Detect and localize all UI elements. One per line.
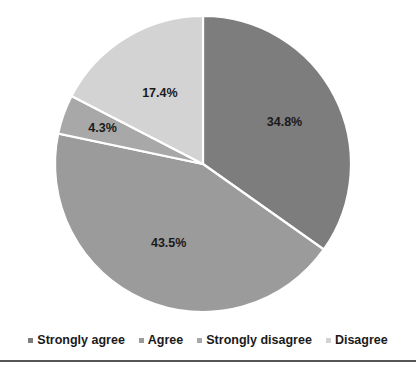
chart-legend: Strongly agree Agree Strongly disagree D…	[0, 329, 416, 351]
pie-svg	[0, 0, 416, 325]
legend-item-disagree[interactable]: Disagree	[326, 333, 388, 347]
legend-swatch-icon	[139, 338, 144, 343]
slice-label-agree: 43.5%	[151, 236, 186, 250]
pie-plot-area: 34.8% 43.5% 4.3% 17.4%	[0, 0, 416, 325]
legend-item-label: Strongly disagree	[206, 333, 312, 347]
legend-item-agree[interactable]: Agree	[139, 333, 183, 347]
legend-item-strongly-disagree[interactable]: Strongly disagree	[197, 333, 312, 347]
legend-item-strongly-agree[interactable]: Strongly agree	[28, 333, 125, 347]
footer-divider	[0, 360, 416, 362]
pie-slice-group	[55, 16, 351, 312]
legend-swatch-icon	[28, 338, 33, 343]
slice-label-strongly-agree: 34.8%	[267, 115, 302, 129]
slice-label-disagree: 17.4%	[142, 86, 177, 100]
slice-label-strongly-disagree: 4.3%	[88, 121, 117, 135]
legend-item-label: Strongly agree	[37, 333, 125, 347]
legend-swatch-icon	[197, 338, 202, 343]
legend-item-label: Disagree	[335, 333, 388, 347]
legend-item-label: Agree	[148, 333, 183, 347]
legend-swatch-icon	[326, 338, 331, 343]
pie-chart-figure: 34.8% 43.5% 4.3% 17.4% Strongly agree Ag…	[0, 0, 416, 369]
